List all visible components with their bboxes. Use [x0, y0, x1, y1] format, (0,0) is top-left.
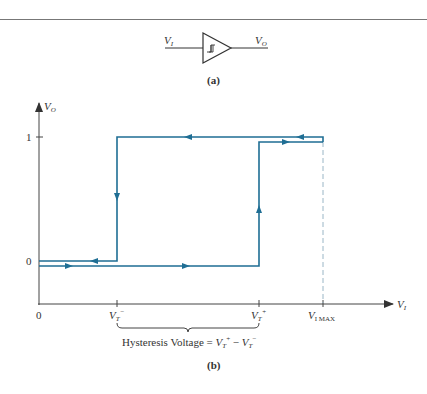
y-tick-label-1: 1 [26, 131, 32, 143]
x-tick-label-vt-minus: VT− [109, 308, 125, 323]
x-axis-label: VI [397, 298, 407, 312]
input-label: VI [164, 34, 174, 48]
caption-a: (a) [207, 74, 220, 87]
output-label: VO [255, 34, 267, 48]
caption-b: (b) [207, 359, 221, 372]
x-tick-label-vt-plus: VT+ [251, 308, 267, 323]
diagram-canvas: VI VO (a) VO VI 1 0 0 VT− VT+ VI MAX [0, 0, 427, 394]
x-tick-label-vi-max: VI MAX [308, 309, 335, 323]
x-origin-label: 0 [36, 309, 42, 321]
hysteresis-brace [117, 323, 259, 332]
hysteresis-loop [39, 137, 323, 266]
y-axis-label: VO [44, 100, 56, 114]
y-tick-label-0: 0 [26, 255, 32, 267]
hysteresis-icon [207, 45, 215, 52]
direction-arrows [65, 134, 304, 269]
hysteresis-voltage-label: Hysteresis Voltage = VT+ − VT− [122, 335, 256, 350]
schmitt-trigger-symbol [165, 33, 268, 63]
